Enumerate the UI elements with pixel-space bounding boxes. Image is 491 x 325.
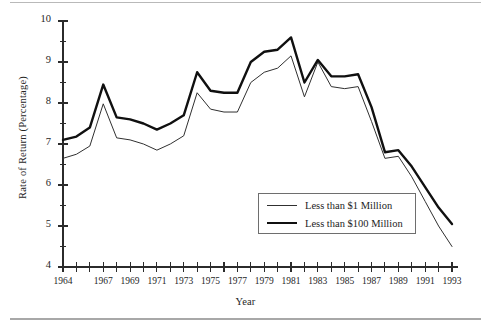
legend-line-swatch-thick	[267, 222, 297, 224]
chart-figure: 45678910 1964196719691971197319751977197…	[0, 0, 491, 325]
y-axis-tick-label: 8	[29, 95, 51, 106]
x-axis-tick-label: 1964	[43, 276, 83, 286]
y-axis-tick-label: 6	[29, 177, 51, 188]
y-axis-title: Rate of Return (Percentage)	[17, 58, 28, 218]
legend-line-swatch-thin	[267, 205, 297, 206]
legend-label: Less than $100 Million	[305, 218, 403, 229]
legend-item-less-than-1-million: Less than $1 Million	[267, 196, 392, 214]
y-axis-tick-label: 10	[29, 13, 51, 24]
y-axis-tick-label: 4	[29, 259, 51, 270]
x-axis-title: Year	[0, 296, 491, 307]
chart-legend: Less than $1 Million Less than $100 Mill…	[258, 193, 416, 234]
x-axis-tick-label: 1993	[432, 276, 472, 286]
y-axis-tick-label: 7	[29, 136, 51, 147]
y-axis-tick-label: 9	[29, 54, 51, 65]
legend-label: Less than $1 Million	[305, 200, 392, 211]
axes-group	[58, 21, 458, 272]
legend-item-less-than-100-million: Less than $100 Million	[267, 214, 403, 232]
y-axis-tick-label: 5	[29, 218, 51, 229]
